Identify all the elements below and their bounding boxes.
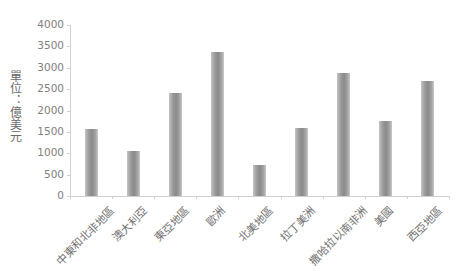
bar <box>379 121 392 196</box>
x-axis-line <box>70 196 449 197</box>
x-tick-mark <box>281 196 282 199</box>
y-tick-label: 1000 <box>32 146 64 158</box>
y-tick-label: 0 <box>32 189 64 201</box>
y-axis-line <box>70 25 71 197</box>
y-tick-label: 4000 <box>32 18 64 30</box>
x-tick-label: 拉丁美洲 <box>276 202 318 244</box>
x-tick-label: 美國 <box>369 202 396 229</box>
x-tick-label: 東亞地區 <box>150 202 192 244</box>
bar <box>85 129 98 196</box>
x-tick-mark <box>70 196 71 199</box>
x-tick-label: 北美地區 <box>234 202 276 244</box>
y-axis-label: 單位：億美元 <box>6 70 20 142</box>
bar <box>295 128 308 196</box>
bar <box>127 151 140 196</box>
bar <box>253 165 266 196</box>
x-tick-mark <box>365 196 366 199</box>
y-tick-label: 2500 <box>32 82 64 94</box>
y-tick-label: 1500 <box>32 125 64 137</box>
y-tick-label: 2000 <box>32 104 64 116</box>
y-tick-label: 500 <box>32 168 64 180</box>
x-tick-mark <box>196 196 197 199</box>
bar-chart: 單位：億美元 05001000150020002500300035004000 … <box>0 0 467 271</box>
bar <box>211 52 224 196</box>
x-tick-label: 澳大利亞 <box>108 202 150 244</box>
bar <box>337 73 350 196</box>
bar <box>169 93 182 196</box>
x-tick-mark <box>407 196 408 199</box>
y-tick-label: 3000 <box>32 61 64 73</box>
x-tick-label: 西亞地區 <box>402 202 444 244</box>
x-tick-mark <box>323 196 324 199</box>
y-tick-label: 3500 <box>32 39 64 51</box>
x-tick-mark <box>112 196 113 199</box>
x-tick-label: 歐洲 <box>201 202 228 229</box>
bar <box>421 81 434 196</box>
x-tick-mark <box>238 196 239 199</box>
x-tick-label: 中東和北非地區 <box>52 202 118 268</box>
x-tick-mark <box>449 196 450 199</box>
x-tick-mark <box>154 196 155 199</box>
